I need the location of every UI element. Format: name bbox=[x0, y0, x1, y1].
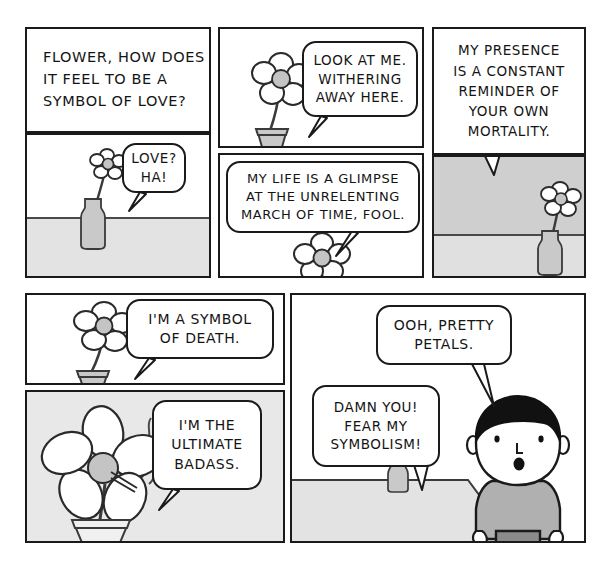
bubble-line: MY LIFE IS A GLIMPSE bbox=[247, 170, 399, 188]
bubble-line: FEAR MY bbox=[344, 417, 407, 436]
bubble-tail bbox=[328, 229, 364, 259]
speech-bubble-withering: LOOK AT ME. WITHERING AWAY HERE. bbox=[302, 41, 418, 117]
bubble-line: HA! bbox=[141, 168, 168, 187]
bubble-line: AT THE UNRELENTING bbox=[246, 188, 400, 206]
bubble-line: DAMN YOU! bbox=[334, 398, 418, 417]
panel-4-caption-text: MY PRESENCE IS A CONSTANT REMINDER OF YO… bbox=[436, 31, 582, 151]
bubble-tail bbox=[456, 362, 502, 410]
panel-5-death: I'M A SYMBOL OF DEATH. bbox=[25, 293, 285, 385]
bubble-line: BADASS. bbox=[174, 455, 240, 474]
bubble-line: WITHERING bbox=[318, 70, 402, 89]
speech-bubble-pretty-petals: OOH, PRETTY PETALS. bbox=[376, 305, 512, 365]
bubble-line: I'M A SYMBOL bbox=[148, 310, 251, 329]
panel-4-scene bbox=[432, 155, 586, 278]
bubble-tail bbox=[155, 487, 187, 513]
comic-strip: FLOWER, HOW DOES IT FEEL TO BE A SYMBOL … bbox=[0, 0, 611, 568]
speech-bubble-glimpse: MY LIFE IS A GLIMPSE AT THE UNRELENTING … bbox=[226, 161, 420, 233]
bubble-line: ULTIMATE bbox=[171, 435, 243, 454]
caption-tail bbox=[478, 155, 512, 179]
bubble-line: SYMBOLISM! bbox=[330, 435, 421, 454]
bubble-line: PETALS. bbox=[414, 335, 474, 354]
bubble-tail bbox=[126, 190, 156, 214]
flower-in-bottle-vase bbox=[522, 175, 586, 277]
bubble-line: AWAY HERE. bbox=[316, 88, 405, 107]
person-character bbox=[456, 391, 586, 543]
bubble-line: OOH, PRETTY bbox=[394, 316, 495, 335]
bubble-line: LOVE? bbox=[131, 149, 176, 168]
bubble-tail bbox=[410, 463, 442, 493]
caption-line: IT FEEL TO BE A bbox=[43, 69, 168, 91]
speech-bubble-symbol-of-death: I'M A SYMBOL OF DEATH. bbox=[126, 299, 274, 359]
bubble-tail bbox=[131, 356, 163, 382]
bubble-line: OF DEATH. bbox=[160, 329, 240, 348]
speech-bubble-fear-my-symbolism: DAMN YOU! FEAR MY SYMBOLISM! bbox=[312, 385, 440, 467]
caption-line: MORTALITY. bbox=[468, 121, 551, 141]
speech-bubble-ultimate-badass: I'M THE ULTIMATE BADASS. bbox=[152, 400, 262, 490]
bubble-tail bbox=[305, 114, 335, 140]
caption-line: REMINDER OF bbox=[458, 81, 559, 101]
bubble-line: MARCH OF TIME, FOOL. bbox=[241, 206, 405, 224]
bubble-line: LOOK AT ME. bbox=[313, 51, 406, 70]
caption-line: SYMBOL OF LOVE? bbox=[43, 91, 186, 113]
caption-line: IS A CONSTANT bbox=[453, 61, 565, 81]
caption-line: MY PRESENCE bbox=[458, 40, 560, 60]
caption-line: FLOWER, HOW DOES bbox=[43, 47, 205, 69]
panel-1-scene: LOVE? HA! bbox=[25, 133, 211, 278]
panel-6-badass: I'M THE ULTIMATE BADASS. bbox=[25, 390, 285, 543]
panel-1-caption-text: FLOWER, HOW DOES IT FEEL TO BE A SYMBOL … bbox=[29, 31, 207, 129]
caption-line: YOUR OWN bbox=[469, 101, 550, 121]
bubble-line: I'M THE bbox=[179, 416, 236, 435]
speech-bubble-love-ha: LOVE? HA! bbox=[122, 143, 186, 193]
panel-2-withering: LOOK AT ME. WITHERING AWAY HERE. bbox=[218, 27, 424, 148]
panel-3-glimpse: MY LIFE IS A GLIMPSE AT THE UNRELENTING … bbox=[218, 153, 424, 278]
panel-7-petals: OOH, PRETTY PETALS. DAMN YOU! FEAR MY SY… bbox=[290, 293, 586, 543]
